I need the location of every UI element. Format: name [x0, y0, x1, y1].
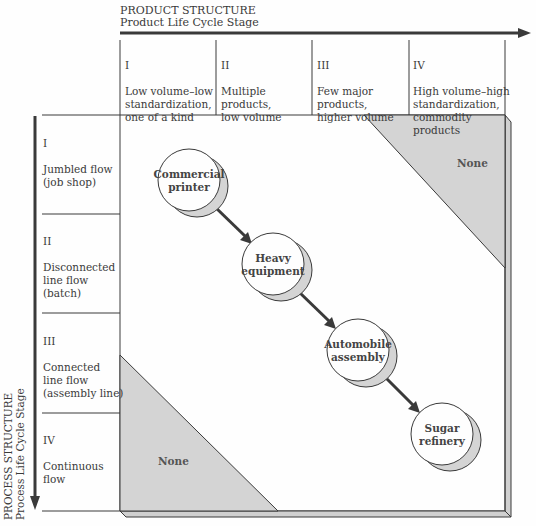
- column-description: High volume–high standardization, commod…: [413, 85, 510, 137]
- process-structure-subtitle: Process Life Cycle Stage: [14, 388, 26, 520]
- row-description: Connected line flow (assembly line): [43, 361, 123, 400]
- row-header-2: II Disconnected line flow (batch): [43, 222, 115, 313]
- frame-bottom-edge: [120, 511, 511, 517]
- product-structure-subtitle: Product Life Cycle Stage: [120, 17, 259, 29]
- row-description: Continuous flow: [43, 460, 104, 486]
- process-axis-arrowhead: [30, 496, 40, 510]
- none-label-top-right: None: [457, 157, 488, 169]
- row-numeral: III: [43, 335, 123, 348]
- process-structure-title: PROCESS STRUCTURE: [2, 388, 14, 520]
- node-heavy-equipment: Heavy equipment: [233, 252, 313, 278]
- column-header-3: III Few major products, higher volume: [317, 46, 394, 137]
- row-description: Jumbled flow (job shop): [43, 163, 113, 189]
- none-label-bottom-left: None: [158, 455, 189, 467]
- column-header-2: II Multiple products, low volume: [221, 46, 282, 137]
- column-header-1: I Low volume–low standardization, one of…: [125, 46, 213, 137]
- row-header-1: I Jumbled flow (job shop): [43, 124, 113, 202]
- frame-right-edge: [505, 115, 511, 517]
- row-numeral: I: [43, 137, 113, 150]
- none-region-bottom-left: [120, 355, 278, 511]
- node-sugar-refinery: Sugar refinery: [402, 422, 482, 448]
- column-numeral: III: [317, 59, 394, 72]
- row-description: Disconnected line flow (batch): [43, 261, 115, 300]
- node-commercial-printer: Commercial printer: [149, 168, 229, 194]
- column-numeral: IV: [413, 59, 510, 72]
- node-automobile-assembly: Automobile assembly: [318, 338, 398, 364]
- column-description: Multiple products, low volume: [221, 85, 282, 124]
- product-structure-heading: PRODUCT STRUCTURE Product Life Cycle Sta…: [120, 5, 259, 29]
- column-description: Few major products, higher volume: [317, 85, 394, 124]
- row-numeral: IV: [43, 434, 104, 447]
- process-structure-heading: PROCESS STRUCTURE Process Life Cycle Sta…: [2, 388, 26, 520]
- row-numeral: II: [43, 235, 115, 248]
- row-header-4: IV Continuous flow: [43, 421, 104, 499]
- column-description: Low volume–low standardization, one of a…: [125, 85, 213, 124]
- product-axis-arrowhead: [518, 28, 531, 38]
- column-numeral: I: [125, 59, 213, 72]
- row-header-3: III Connected line flow (assembly line): [43, 322, 123, 413]
- column-numeral: II: [221, 59, 282, 72]
- column-header-4: IV High volume–high standardization, com…: [413, 46, 510, 150]
